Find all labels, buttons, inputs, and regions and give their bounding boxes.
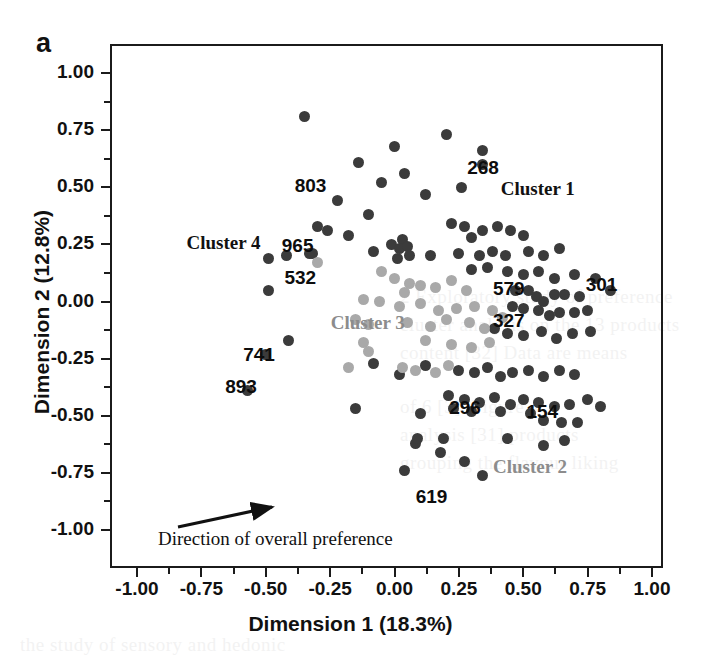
point-id-label: 532 (284, 267, 316, 289)
y-axis-tick-label: 0.25 (14, 232, 94, 254)
y-axis-tick (101, 186, 110, 188)
scatter-point (569, 369, 580, 380)
scatter-point (420, 335, 431, 346)
scatter-point (538, 440, 549, 451)
scatter-point (495, 371, 506, 382)
y-axis-minor-tick (104, 386, 110, 388)
scatter-point (430, 282, 441, 293)
scatter-point (412, 433, 423, 444)
cluster-label: Cluster 2 (493, 456, 567, 478)
scatter-point (477, 470, 488, 481)
scatter-point (500, 250, 511, 261)
scatter-point (505, 399, 516, 410)
y-axis-minor-tick (104, 329, 110, 331)
scatter-point (567, 328, 578, 339)
scatter-point (438, 433, 449, 444)
point-id-label: 579 (493, 278, 525, 300)
scatter-point (368, 246, 379, 257)
scatter-point (435, 447, 446, 458)
scatter-point (399, 168, 410, 179)
scatter-point (559, 289, 570, 300)
point-id-label: 268 (467, 157, 499, 179)
scatter-point (420, 360, 431, 371)
scatter-point (523, 365, 534, 376)
scatter-point (538, 250, 549, 261)
point-id-label: 327 (493, 310, 525, 332)
y-axis-tick (101, 358, 110, 360)
y-axis-tick-label: 0.75 (14, 118, 94, 140)
scatter-point (389, 141, 400, 152)
scatter-point (446, 275, 457, 286)
scatter-point (404, 250, 415, 261)
scatter-point (479, 323, 490, 334)
scatter-point (554, 365, 565, 376)
scatter-point (446, 339, 457, 350)
scatter-point (376, 266, 387, 277)
scatter-point (518, 230, 529, 241)
point-id-label: 619 (416, 486, 448, 508)
scatter-point (358, 294, 369, 305)
x-axis-minor-tick (619, 568, 621, 574)
scatter-point (389, 273, 400, 284)
scatter-point (322, 225, 333, 236)
scatter-point (263, 285, 274, 296)
scatter-point (374, 296, 385, 307)
scatter-point (544, 310, 555, 321)
scatter-point (559, 435, 570, 446)
point-id-label: 301 (586, 274, 618, 296)
x-axis-tick (587, 568, 589, 577)
y-axis-minor-tick (104, 215, 110, 217)
scatter-point (283, 335, 294, 346)
scatter-point (459, 456, 470, 467)
scatter-point (332, 195, 343, 206)
x-axis-tick (329, 568, 331, 577)
scatter-point (582, 394, 593, 405)
scatter-point (477, 225, 488, 236)
cluster-label: Cluster 1 (501, 178, 575, 200)
scatter-point (466, 264, 477, 275)
scatter-point (453, 365, 464, 376)
point-id-label: 965 (282, 235, 314, 257)
scatter-point (461, 285, 472, 296)
scatter-point (363, 209, 374, 220)
scatter-point (451, 303, 462, 314)
scatter-point (495, 406, 506, 417)
scatter-point (343, 362, 354, 373)
scatter-point (399, 287, 410, 298)
scatter-point (469, 367, 480, 378)
scatter-point (443, 360, 454, 371)
scatter-point (505, 225, 516, 236)
scatter-point (353, 157, 364, 168)
figure-panel-a: a 803965532268301579327741893296154619Cl… (0, 0, 701, 671)
scatter-point (441, 129, 452, 140)
y-axis-minor-tick (104, 500, 110, 502)
x-axis-tick (200, 568, 202, 577)
scatter-point (394, 301, 405, 312)
x-axis-tick (458, 568, 460, 577)
scatter-point (502, 433, 513, 444)
x-axis-minor-tick (490, 568, 492, 574)
scatter-point (263, 253, 274, 264)
scatter-point (523, 246, 534, 257)
scatter-point (415, 280, 426, 291)
x-axis-tick (394, 568, 396, 577)
y-axis-minor-tick (104, 158, 110, 160)
scatter-point (551, 333, 562, 344)
x-axis-minor-tick (426, 568, 428, 574)
scatter-point (572, 417, 583, 428)
y-axis-tick (101, 129, 110, 131)
scatter-point (425, 250, 436, 261)
y-axis-tick-label: -0.25 (14, 347, 94, 369)
scatter-point (582, 305, 593, 316)
x-axis-tick (136, 568, 138, 577)
y-axis-minor-tick (104, 272, 110, 274)
scatter-point (415, 298, 426, 309)
scatter-point (397, 362, 408, 373)
point-id-label: 154 (526, 401, 558, 423)
scatter-point (554, 243, 565, 254)
y-axis-tick-label: 0.50 (14, 175, 94, 197)
x-axis-minor-tick (233, 568, 235, 574)
scatter-point (507, 367, 518, 378)
y-axis-tick-label: -0.50 (14, 404, 94, 426)
y-axis-tick (101, 529, 110, 531)
